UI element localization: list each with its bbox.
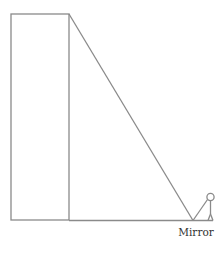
person-leg-right	[211, 214, 214, 221]
building-rectangle	[11, 14, 69, 220]
person-figure	[207, 193, 214, 220]
ray-mirror-to-eye	[193, 200, 208, 221]
person-leg-left	[208, 214, 211, 221]
mirror-label: Mirror	[178, 226, 214, 238]
ray-building-top-to-mirror	[69, 14, 193, 221]
mirror-height-diagram: Mirror	[0, 0, 224, 253]
person-head	[207, 193, 214, 200]
